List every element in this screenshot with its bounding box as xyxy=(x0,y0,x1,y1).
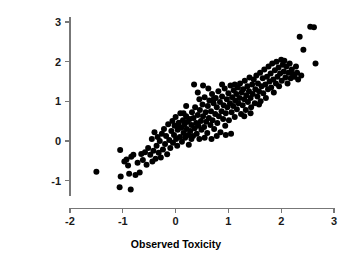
data-point xyxy=(188,136,194,142)
data-point xyxy=(160,147,166,153)
data-point xyxy=(126,171,132,177)
data-point xyxy=(196,96,202,102)
data-point xyxy=(298,72,304,78)
data-point xyxy=(276,83,282,89)
x-axis-tick-label: 1 xyxy=(225,215,231,227)
data-point xyxy=(137,170,143,176)
data-point xyxy=(285,80,291,86)
data-point xyxy=(205,103,211,109)
data-point xyxy=(117,184,123,190)
x-axis-title: Observed Toxicity xyxy=(131,238,221,250)
data-point xyxy=(202,135,208,141)
data-point xyxy=(118,174,124,180)
data-point xyxy=(161,126,167,132)
data-point xyxy=(197,107,203,113)
data-point xyxy=(214,120,220,126)
y-axis-tick-label: 0 xyxy=(55,135,61,147)
data-point xyxy=(145,145,151,151)
data-point xyxy=(117,147,123,153)
axis-titles-layer: Observed Toxicity Toxicity Predicted by … xyxy=(0,65,221,250)
data-point xyxy=(287,61,293,67)
data-point xyxy=(215,88,221,94)
scatter-plot-figure: -10123-2-10123 Observed Toxicity Toxicit… xyxy=(0,0,352,258)
data-point xyxy=(228,131,234,137)
data-point xyxy=(232,82,238,88)
data-point xyxy=(93,169,99,175)
data-point xyxy=(135,160,141,166)
x-axis-tick-label: 3 xyxy=(331,215,337,227)
data-point xyxy=(183,103,189,109)
data-point xyxy=(313,61,319,67)
data-point xyxy=(214,133,220,139)
x-axis-tick-label: -1 xyxy=(118,215,128,227)
data-point xyxy=(222,123,228,129)
data-point xyxy=(219,82,225,88)
data-point xyxy=(209,136,215,142)
data-point xyxy=(140,157,146,163)
data-point xyxy=(241,113,247,119)
data-point xyxy=(157,138,163,144)
x-axis-tick-label: 2 xyxy=(278,215,284,227)
data-point xyxy=(268,84,274,90)
data-points-layer xyxy=(93,24,318,193)
plot-canvas: -10123-2-10123 Observed Toxicity Toxicit… xyxy=(0,0,352,258)
data-point xyxy=(150,148,156,154)
data-point xyxy=(128,187,134,193)
data-point xyxy=(201,124,207,130)
data-point xyxy=(203,109,209,115)
data-point xyxy=(311,24,317,30)
data-point xyxy=(195,90,201,96)
data-point xyxy=(281,58,287,64)
data-point xyxy=(300,47,306,53)
y-axis-tick-label: 3 xyxy=(55,16,61,28)
data-point xyxy=(232,114,238,120)
data-point xyxy=(196,136,202,142)
y-axis-tick-label: 2 xyxy=(55,56,61,68)
data-point xyxy=(223,132,229,138)
data-point xyxy=(144,162,150,168)
data-point xyxy=(125,162,131,168)
data-point xyxy=(194,131,200,137)
data-point xyxy=(181,110,187,116)
data-point xyxy=(130,152,136,158)
data-point xyxy=(211,96,217,102)
data-point xyxy=(173,114,179,120)
data-point xyxy=(175,121,181,127)
data-point xyxy=(164,151,170,157)
x-axis-tick-label: 0 xyxy=(173,215,179,227)
data-point xyxy=(200,82,206,88)
data-point xyxy=(186,142,192,148)
data-point xyxy=(211,126,217,132)
data-point xyxy=(191,82,197,88)
data-point xyxy=(263,95,269,101)
data-point xyxy=(256,101,262,107)
data-point xyxy=(248,110,254,116)
x-axis-tick-label: -2 xyxy=(65,215,75,227)
data-point xyxy=(200,101,206,107)
data-point xyxy=(205,86,211,92)
data-point xyxy=(195,112,201,118)
data-point xyxy=(149,136,155,142)
data-point xyxy=(153,156,159,162)
data-point xyxy=(220,116,226,122)
data-point xyxy=(226,117,232,123)
data-point xyxy=(271,90,277,96)
data-point xyxy=(223,110,229,116)
data-point xyxy=(297,34,303,40)
y-axis-tick-label: 1 xyxy=(55,95,61,107)
data-point xyxy=(174,143,180,149)
data-point xyxy=(189,109,195,115)
data-point xyxy=(167,145,173,151)
data-point xyxy=(234,106,240,112)
y-axis-tick-label: -1 xyxy=(51,175,61,187)
data-point xyxy=(293,63,299,69)
data-point xyxy=(214,104,220,110)
data-point xyxy=(158,155,164,161)
